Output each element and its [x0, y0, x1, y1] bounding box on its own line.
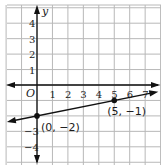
- y-tick-label: −3: [24, 126, 39, 137]
- y-axis-up-arrow-icon: [34, 5, 40, 14]
- x-tick-label: 2: [65, 89, 71, 100]
- x-tick-labels: 1234567: [49, 89, 148, 100]
- x-tick-label: 1: [49, 89, 55, 100]
- x-tick-label: 4: [96, 89, 102, 100]
- y-axis-label: y: [41, 5, 49, 18]
- x-axis-right-arrow-icon: [151, 82, 160, 88]
- y-tick-label: 1: [29, 65, 35, 76]
- coordinate-graph: y O 1234567 4321−3−4 (0, −2)(5, −1): [0, 0, 161, 165]
- y-tick-label: −4: [24, 142, 39, 153]
- y-tick-label: 2: [29, 49, 35, 60]
- x-tick-label: 3: [80, 89, 86, 100]
- line-left-arrow-icon: [7, 117, 16, 123]
- point-label: (0, −2): [41, 121, 80, 134]
- graph-canvas: y O 1234567 4321−3−4 (0, −2)(5, −1): [0, 0, 161, 165]
- x-axis-left-arrow-icon: [6, 82, 15, 88]
- y-tick-label: 3: [29, 34, 35, 45]
- point-marker: [111, 98, 117, 104]
- point-marker: [34, 113, 40, 119]
- point-label: (5, −1): [107, 105, 146, 118]
- line-right-arrow-icon: [149, 90, 158, 96]
- origin-label: O: [26, 87, 35, 100]
- y-tick-label: 4: [29, 18, 35, 29]
